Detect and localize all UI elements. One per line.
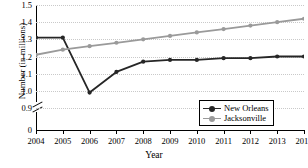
x-tick-mark <box>304 130 305 134</box>
data-point-new-orleans <box>302 54 304 58</box>
data-point-new-orleans <box>61 36 65 40</box>
legend-marker-jacksonville <box>203 114 221 123</box>
data-point-jacksonville <box>61 48 65 52</box>
y-tick-label: 1.3 <box>12 35 32 43</box>
x-tick-mark <box>224 130 225 134</box>
plot-area <box>36 5 304 108</box>
chart-legend: New Orleans Jacksonville <box>199 100 274 126</box>
x-tick-mark <box>116 130 117 134</box>
y-tick-label: 1.5 <box>12 1 32 9</box>
data-point-new-orleans <box>275 54 279 58</box>
y-tick-label: 1.0 <box>12 87 32 95</box>
series-svg <box>36 5 304 108</box>
series-line-new-orleans <box>36 38 304 93</box>
data-point-jacksonville <box>248 24 252 28</box>
x-tick-mark <box>63 130 64 134</box>
data-point-new-orleans <box>141 60 145 64</box>
y-tick-label: 0.9 <box>12 104 32 112</box>
data-point-jacksonville <box>168 34 172 38</box>
data-point-jacksonville <box>114 41 118 45</box>
data-point-new-orleans <box>195 58 199 62</box>
x-tick-label: 2014 <box>284 136 308 146</box>
data-point-jacksonville <box>141 37 145 41</box>
y-tick-label: 0 <box>12 126 32 134</box>
line-chart-figure: Number (in millions) 00.91.01.11.21.31.4… <box>0 0 308 168</box>
data-point-new-orleans <box>88 90 92 94</box>
x-axis-title: Year <box>0 150 308 160</box>
y-tick-label: 1.4 <box>12 18 32 26</box>
data-point-jacksonville <box>275 20 279 24</box>
data-point-new-orleans <box>168 58 172 62</box>
data-point-new-orleans <box>114 70 118 74</box>
series-layer <box>36 5 304 108</box>
data-point-jacksonville <box>195 30 199 34</box>
y-tick-label: 1.2 <box>12 53 32 61</box>
data-point-jacksonville <box>36 53 38 57</box>
data-point-new-orleans <box>36 36 38 40</box>
legend-label-new-orleans: New Orleans <box>224 104 269 113</box>
data-point-jacksonville <box>222 27 226 31</box>
data-point-jacksonville <box>302 17 304 21</box>
data-point-jacksonville <box>88 44 92 48</box>
x-tick-mark <box>90 130 91 134</box>
legend-label-jacksonville: Jacksonville <box>224 114 266 123</box>
y-tick-label: 1.1 <box>12 70 32 78</box>
x-tick-mark <box>277 130 278 134</box>
data-point-new-orleans <box>222 56 226 60</box>
data-point-new-orleans <box>248 56 252 60</box>
x-tick-mark <box>197 130 198 134</box>
legend-item-new-orleans: New Orleans <box>203 103 269 113</box>
x-tick-mark <box>36 130 37 134</box>
legend-item-jacksonville: Jacksonville <box>203 113 269 123</box>
legend-marker-new-orleans <box>203 104 221 113</box>
x-tick-mark <box>170 130 171 134</box>
x-tick-mark <box>250 130 251 134</box>
x-tick-mark <box>143 130 144 134</box>
